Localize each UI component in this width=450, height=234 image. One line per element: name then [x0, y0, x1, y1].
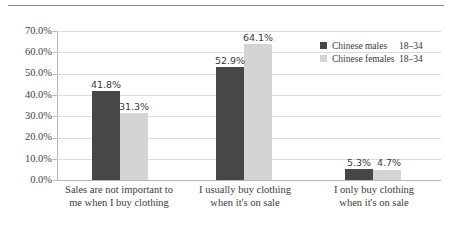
x-category-label-3-line-2: when it's on sale	[316, 197, 432, 210]
legend-label-males: Chinese males	[332, 41, 395, 51]
x-category-label-1-line-1: Sales are not important to	[54, 184, 184, 197]
x-axis-line	[57, 180, 441, 181]
legend-swatch-females-icon	[320, 55, 327, 62]
y-tick-label-20: 20.0%	[4, 132, 52, 143]
legend-swatch-males-icon	[320, 42, 327, 49]
y-tick-label-50: 50.0%	[4, 68, 52, 79]
chart-legend: Chinese males 18–34 Chinese females 18–3…	[320, 40, 423, 66]
y-tick-label-10: 10.0%	[4, 154, 52, 165]
y-axis-tick-labels: 70.0% 60.0% 50.0% 40.0% 30.0% 20.0% 10.0…	[0, 0, 52, 234]
legend-label-females: Chinese females	[332, 54, 395, 64]
y-tick-label-40: 40.0%	[4, 90, 52, 101]
y-tick-label-60: 60.0%	[4, 47, 52, 58]
x-category-label-2: I usually buy clothing when it's on sale	[185, 184, 305, 209]
bar-value-label-females-3: 4.7%	[370, 158, 408, 168]
x-category-label-3: I only buy clothing when it's on sale	[316, 184, 432, 209]
bar-value-label-males-1: 41.8%	[85, 80, 127, 90]
x-category-label-2-line-2: when it's on sale	[185, 197, 305, 210]
legend-age-males: 18–34	[399, 41, 423, 51]
bar-males-2[interactable]	[216, 67, 244, 180]
legend-age-females: 18–34	[399, 54, 423, 64]
bar-value-label-females-1: 31.3%	[113, 102, 155, 112]
bar-value-label-males-2: 52.9%	[209, 56, 251, 66]
x-category-label-3-line-1: I only buy clothing	[316, 184, 432, 197]
x-category-label-1: Sales are not important to me when I buy…	[54, 184, 184, 209]
bar-value-label-females-2: 64.1%	[237, 33, 279, 43]
bar-males-3[interactable]	[345, 169, 373, 180]
x-category-label-1-line-2: me when I buy clothing	[54, 197, 184, 210]
bar-group-1: 41.8% 31.3%	[92, 31, 148, 180]
bar-chart: 70.0% 60.0% 50.0% 40.0% 30.0% 20.0% 10.0…	[0, 0, 450, 234]
y-tick-label-30: 30.0%	[4, 111, 52, 122]
x-category-label-2-line-1: I usually buy clothing	[185, 184, 305, 197]
bar-females-3[interactable]	[373, 170, 401, 180]
legend-item-males[interactable]: Chinese males 18–34	[320, 40, 423, 51]
y-tick-label-70: 70.0%	[4, 26, 52, 37]
bar-females-1[interactable]	[120, 113, 148, 180]
legend-item-females[interactable]: Chinese females 18–34	[320, 53, 423, 64]
bar-group-2: 52.9% 64.1%	[216, 31, 272, 180]
y-tick-label-0: 0.0%	[4, 175, 52, 186]
